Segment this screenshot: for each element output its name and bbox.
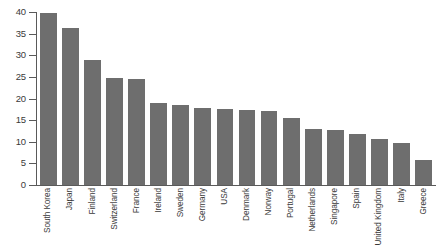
y-axis-tick: [29, 99, 36, 100]
x-axis-label-slot: United Kingdom: [368, 188, 390, 250]
bar: [305, 129, 322, 185]
x-axis-category-label: Spain: [353, 188, 361, 209]
bar: [62, 28, 79, 185]
x-axis-category-label: Italy: [397, 188, 405, 203]
y-axis-tick-label: 0: [0, 180, 26, 190]
bar: [239, 110, 256, 185]
x-axis-label-slot: Japan: [59, 188, 81, 250]
bar: [194, 108, 211, 185]
x-axis-category-label: USA: [221, 188, 229, 205]
y-axis-tick-label: 10: [0, 137, 26, 147]
bar-slot: [59, 12, 81, 185]
bar-slot: [214, 12, 236, 185]
x-axis-category-label: Germany: [199, 188, 207, 221]
bar-slot: [37, 12, 59, 185]
x-axis-label-slot: Greece: [413, 188, 435, 250]
y-axis-tick: [29, 77, 36, 78]
bar-slot: [126, 12, 148, 185]
bar-slot: [391, 12, 413, 185]
bar: [128, 79, 145, 185]
bar: [327, 130, 344, 185]
bar-slot: [346, 12, 368, 185]
y-axis-tick-label: 20: [0, 94, 26, 104]
y-axis-tick: [29, 34, 36, 35]
x-axis-label-slot: Finland: [81, 188, 103, 250]
bar: [371, 139, 388, 185]
y-axis-tick: [29, 142, 36, 143]
bar-slot: [81, 12, 103, 185]
y-axis-tick: [29, 185, 36, 186]
bar: [283, 118, 300, 185]
x-axis-line: [36, 185, 436, 186]
x-axis-category-label: United Kingdom: [375, 188, 383, 246]
y-axis-tick-label: 30: [0, 51, 26, 61]
y-axis-tick-label: 40: [0, 7, 26, 17]
bar: [150, 103, 167, 185]
x-axis-label-slot: Germany: [192, 188, 214, 250]
bar-slot: [236, 12, 258, 185]
x-axis-category-label: Sweden: [177, 188, 185, 217]
x-axis-label-slot: Sweden: [170, 188, 192, 250]
bar: [415, 160, 432, 185]
x-axis-label-slot: France: [126, 188, 148, 250]
x-axis-label-slot: Singapore: [324, 188, 346, 250]
bar-slot: [368, 12, 390, 185]
bar: [172, 105, 189, 185]
x-axis-category-label: Ireland: [155, 188, 163, 213]
y-axis-tick: [29, 120, 36, 121]
bar: [261, 111, 278, 185]
x-axis-label-slot: Denmark: [236, 188, 258, 250]
x-axis-category-label: France: [133, 188, 141, 213]
y-axis-tick-label: 5: [0, 159, 26, 169]
bar: [349, 134, 366, 185]
x-axis-label-slot: Norway: [258, 188, 280, 250]
x-axis-category-label: Singapore: [331, 188, 339, 225]
y-axis-tick-label: 25: [0, 72, 26, 82]
x-axis-label-slot: Netherlands: [302, 188, 324, 250]
bar: [84, 60, 101, 185]
bar-slot: [258, 12, 280, 185]
bar-slot: [413, 12, 435, 185]
y-axis-tick-label: 15: [0, 115, 26, 125]
x-axis-label-slot: Ireland: [148, 188, 170, 250]
y-axis-tick: [29, 163, 36, 164]
x-axis-label-slot: Spain: [346, 188, 368, 250]
y-axis-tick: [29, 55, 36, 56]
bar: [217, 109, 234, 185]
x-axis-label-slot: Switzerland: [104, 188, 126, 250]
bar: [106, 78, 123, 185]
bar-slot: [302, 12, 324, 185]
bar-chart: 0510152025303540 South KoreaJapanFinland…: [0, 0, 447, 251]
bar-slot: [280, 12, 302, 185]
x-axis-label-slot: Portugal: [280, 188, 302, 250]
x-axis-labels: South KoreaJapanFinlandSwitzerlandFrance…: [36, 188, 436, 250]
x-axis-category-label: Portugal: [287, 188, 295, 218]
bar: [393, 143, 410, 185]
x-axis-category-label: Japan: [66, 188, 74, 210]
bar-slot: [104, 12, 126, 185]
bar-slot: [148, 12, 170, 185]
x-axis-category-label: Denmark: [243, 188, 251, 221]
y-axis-tick: [29, 12, 36, 13]
x-axis-label-slot: Italy: [391, 188, 413, 250]
bar-slot: [324, 12, 346, 185]
x-axis-category-label: Greece: [420, 188, 428, 215]
x-axis-category-label: Finland: [88, 188, 96, 215]
x-axis-category-label: Switzerland: [110, 188, 118, 230]
x-axis-category-label: South Korea: [44, 188, 52, 233]
x-axis-label-slot: South Korea: [37, 188, 59, 250]
y-axis-tick-label: 35: [0, 29, 26, 39]
x-axis-category-label: Norway: [265, 188, 273, 215]
x-axis-label-slot: USA: [214, 188, 236, 250]
bar-slot: [170, 12, 192, 185]
bar-slot: [192, 12, 214, 185]
plot-area: [36, 12, 436, 185]
x-axis-category-label: Netherlands: [309, 188, 317, 232]
bar: [40, 13, 57, 185]
